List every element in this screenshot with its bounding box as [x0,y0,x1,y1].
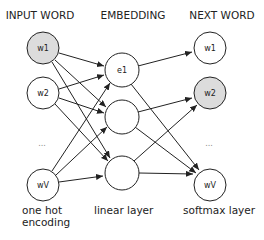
input-node-wV: wV [27,169,59,201]
input-node-w2: w2 [27,77,59,109]
input-node-w1: w1 [27,32,59,64]
input-layer: w1 w2 ... wV [27,32,59,201]
input-footer-line1: one hot [22,204,62,216]
output-node-w2: w2 [194,77,226,109]
input-footer-line2: encoding [22,216,70,228]
input-node-w1-label: w1 [37,44,49,53]
embedding-footer: linear layer [94,204,154,216]
input-to-embedding-edges [52,53,110,182]
embedding-layer: e1 [105,53,139,190]
input-ellipsis: ... [38,139,46,148]
embedding-node-e1: e1 [105,53,139,87]
input-word-header: INPUT WORD [6,9,75,21]
embedding-to-output-edges [131,52,199,174]
embedding-node-2 [105,100,139,134]
output-ellipsis: ... [205,139,213,148]
output-node-w1-label: w1 [204,44,216,53]
next-word-header: NEXT WORD [189,9,254,21]
word2vec-network-diagram: INPUT WORD EMBEDDING NEXT WORD w1 [0,0,264,240]
input-node-wV-label: wV [37,181,50,190]
output-footer: softmax layer [183,204,256,216]
input-node-w2-label: w2 [37,89,49,98]
output-node-wV: wV [194,169,226,201]
output-node-w1: w1 [194,32,226,64]
output-node-w2-label: w2 [204,89,216,98]
embedding-node-3 [105,156,139,190]
embedding-node-e1-label: e1 [117,66,127,75]
embedding-header: EMBEDDING [101,9,166,21]
output-node-wV-label: wV [204,181,217,190]
output-layer: w1 w2 ... wV [194,32,226,201]
